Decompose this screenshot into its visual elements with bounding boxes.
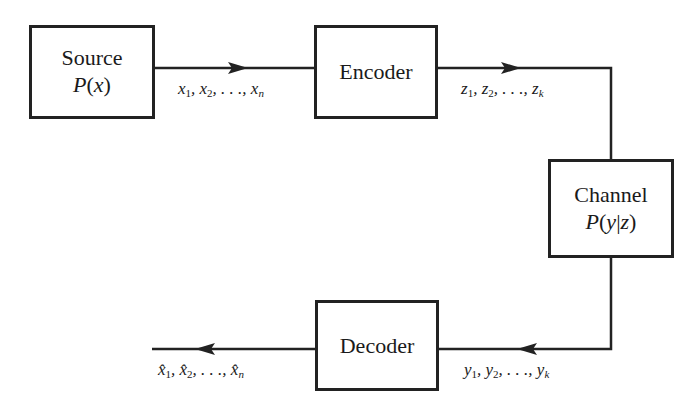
channel-title: Channel	[574, 182, 647, 208]
decoder-title: Decoder	[340, 333, 415, 359]
source-block: Source P(x)	[29, 25, 155, 119]
encoder-block: Encoder	[314, 25, 438, 119]
encoder-title: Encoder	[339, 59, 412, 85]
signal-label-z: z1, z2, . . ., zk	[461, 79, 544, 99]
channel-probability: P(y|z)	[586, 208, 637, 236]
decoder-block: Decoder	[315, 300, 439, 391]
channel-block: Channel P(y|z)	[548, 159, 674, 258]
signal-label-y: y1, y2, . . ., yk	[464, 360, 549, 380]
source-probability: P(x)	[73, 71, 111, 99]
source-title: Source	[61, 45, 122, 71]
signal-label-x: x1, x2, . . ., xn	[178, 79, 264, 99]
signal-label-xhat: x̂1, x̂2, . . ., x̂n	[158, 360, 244, 380]
